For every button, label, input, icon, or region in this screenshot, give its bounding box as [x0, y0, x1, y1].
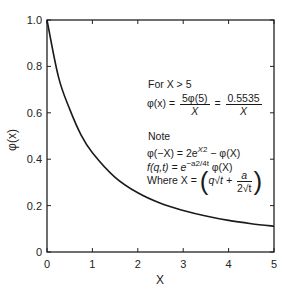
y-tick-label: 0.2 — [27, 200, 42, 212]
annotation-asymptote-formula: φ(x) = 5φ(5)X = 0.5535X — [147, 92, 264, 117]
annotation-condition: For X > 5 — [148, 78, 191, 91]
x-tick-label: 1 — [89, 258, 95, 270]
x-tick-label: 5 — [271, 258, 277, 270]
y-tick-label: 0.4 — [27, 153, 42, 165]
phi-curve — [47, 20, 274, 226]
y-tick-label: 0.8 — [27, 60, 42, 72]
y-tick-label: 1.0 — [27, 14, 42, 26]
x-tick-label: 3 — [180, 258, 186, 270]
y-tick-label: 0.6 — [27, 107, 42, 119]
x-tick-label: 4 — [226, 258, 232, 270]
x-tick-label: 2 — [135, 258, 141, 270]
x-tick-label: 0 — [44, 258, 50, 270]
y-tick-label: 0 — [36, 246, 42, 258]
chart-canvas: 01234500.20.40.60.81.0 φ(x) X — [0, 0, 286, 297]
x-axis-label: X — [156, 273, 164, 287]
y-axis-label: φ(x) — [5, 129, 19, 151]
annotation-where-formula: Where X = (q√t + a2√t) — [147, 168, 262, 194]
annotation-note-heading: Note — [148, 130, 170, 143]
